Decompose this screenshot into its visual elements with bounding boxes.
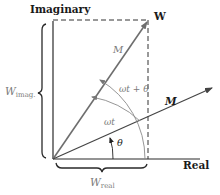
theta-label: θ [117, 137, 123, 148]
w-imag-label: Wimag. [5, 85, 36, 99]
brace-real [56, 163, 147, 172]
imaginary-axis-label: Imaginary [30, 3, 91, 15]
point-W-label: W [153, 10, 166, 22]
w-real-label: Wreal [90, 176, 115, 190]
omega-t-plus-theta-label: ωt + θ [119, 84, 149, 94]
vector-M-bold-label: M [164, 95, 177, 107]
vector-M-label: M [112, 44, 124, 55]
omega-t-label: ωt [104, 117, 115, 127]
arc-omega-t [92, 97, 140, 121]
real-axis-label: Real [183, 159, 209, 171]
brace-imag [38, 24, 46, 158]
arc-theta [110, 138, 113, 159]
phasor-diagram: Imaginary Real W M M ωt + θ ωt θ Wimag. … [0, 0, 220, 195]
